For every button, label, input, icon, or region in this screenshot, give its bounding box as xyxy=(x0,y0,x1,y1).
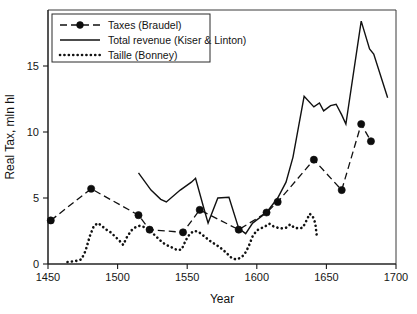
data-point-taxes-braudel xyxy=(179,229,186,236)
data-point-taxes-braudel xyxy=(88,185,95,192)
x-axis-title: Year xyxy=(210,292,234,306)
y-tick-label-0: 0 xyxy=(33,258,39,270)
legend-label-taxes-braudel: Taxes (Braudel) xyxy=(108,19,182,31)
data-point-taxes-braudel xyxy=(135,212,142,219)
data-point-taxes-braudel xyxy=(196,206,203,213)
x-tick-label-1500: 1500 xyxy=(105,271,129,283)
x-tick-label-1550: 1550 xyxy=(175,271,199,283)
data-point-taxes-braudel xyxy=(358,120,365,127)
data-point-taxes-braudel xyxy=(310,156,317,163)
data-point-taxes-braudel xyxy=(338,186,345,193)
legend-sample-marker xyxy=(77,22,84,29)
x-tick-label-1650: 1650 xyxy=(314,271,338,283)
figure-container: 145015001550160016501700051015 Taxes (Br… xyxy=(0,0,417,314)
x-tick-label-1700: 1700 xyxy=(384,271,408,283)
y-axis-title: Real Tax, mln hl xyxy=(3,94,17,179)
legend-label-taille-bonney: Taille (Bonney) xyxy=(108,49,177,61)
data-point-taxes-braudel xyxy=(47,217,54,224)
y-tick-label-5: 5 xyxy=(33,192,39,204)
y-tick-label-10: 10 xyxy=(27,126,39,138)
chart-svg: 145015001550160016501700051015 Taxes (Br… xyxy=(0,0,417,314)
legend-label-total-revenue-kiser-linton: Total revenue (Kiser & Linton) xyxy=(108,34,246,46)
x-tick-label-1600: 1600 xyxy=(245,271,269,283)
legend-group: Taxes (Braudel)Total revenue (Kiser & Li… xyxy=(52,14,246,62)
data-point-taxes-braudel xyxy=(367,138,374,145)
y-tick-label-15: 15 xyxy=(27,60,39,72)
x-tick-label-1450: 1450 xyxy=(36,271,60,283)
